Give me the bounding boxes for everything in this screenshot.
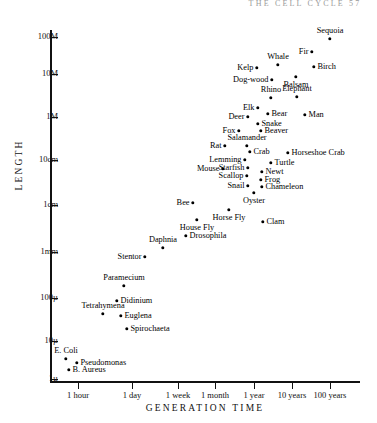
data-point bbox=[246, 115, 249, 118]
y-tick-label: 10M bbox=[12, 69, 58, 78]
data-point bbox=[256, 106, 259, 109]
data-point bbox=[161, 246, 164, 249]
y-tick-label: 1M bbox=[12, 112, 58, 121]
data-point bbox=[303, 113, 306, 116]
data-point-label: Chameleon bbox=[266, 183, 304, 191]
data-point-label: Deer bbox=[228, 113, 244, 121]
x-tick-label: 1 week bbox=[166, 390, 190, 400]
data-point-label: Rhino bbox=[261, 86, 281, 94]
data-point-label: Crab bbox=[254, 148, 270, 156]
data-point-label: Scallop bbox=[219, 172, 244, 180]
data-point-label: Elk bbox=[243, 104, 255, 112]
data-point-label: Euglena bbox=[125, 312, 152, 320]
data-point-label: Drosophila bbox=[190, 232, 227, 240]
data-point-label: Sequoia bbox=[317, 27, 344, 35]
data-point bbox=[243, 158, 246, 161]
data-point bbox=[260, 170, 263, 173]
data-point-label: Fir bbox=[299, 48, 309, 56]
data-point bbox=[67, 368, 70, 371]
y-tick-label: 1mm bbox=[12, 247, 58, 256]
data-point bbox=[195, 218, 198, 221]
data-point bbox=[227, 208, 230, 211]
data-point bbox=[269, 161, 272, 164]
data-point bbox=[270, 78, 273, 81]
data-point-label: Paramecium bbox=[103, 274, 144, 282]
data-point-label: Whale bbox=[267, 53, 289, 61]
data-point-label: Didinium bbox=[121, 297, 153, 305]
x-tick-mark bbox=[78, 381, 79, 389]
y-tick-label: 1µ bbox=[12, 374, 58, 383]
data-point bbox=[184, 234, 187, 237]
data-point-label: Salamander bbox=[227, 134, 266, 142]
data-point-label: Dog-wood bbox=[233, 76, 269, 84]
data-point bbox=[295, 95, 298, 98]
y-tick-label: 100µ bbox=[12, 293, 58, 302]
data-point bbox=[266, 112, 269, 115]
data-point bbox=[276, 63, 279, 66]
x-tick-mark bbox=[132, 381, 133, 389]
data-point-label: Man bbox=[309, 111, 324, 119]
x-tick-mark bbox=[254, 381, 255, 389]
y-tick-label: 100M bbox=[12, 32, 58, 41]
data-point bbox=[245, 174, 248, 177]
data-point-label: Rat bbox=[210, 142, 222, 150]
data-point bbox=[64, 357, 67, 360]
data-point-label: Elephant bbox=[282, 85, 312, 93]
data-point bbox=[261, 220, 264, 223]
data-point bbox=[312, 65, 315, 68]
data-point bbox=[191, 201, 194, 204]
data-point bbox=[101, 312, 104, 315]
x-tick-label: 100 years bbox=[314, 390, 347, 400]
data-point-label: Daphnia bbox=[149, 236, 177, 244]
data-point-label: Spirochaeta bbox=[131, 325, 170, 333]
data-point bbox=[269, 96, 272, 99]
x-tick-mark bbox=[292, 381, 293, 389]
data-point-label: Kelp bbox=[237, 64, 253, 72]
data-point bbox=[246, 166, 249, 169]
data-point-label: Bee bbox=[177, 199, 190, 207]
x-tick-mark bbox=[178, 381, 179, 389]
data-point bbox=[223, 144, 226, 147]
data-point-label: Birch bbox=[318, 63, 336, 71]
data-point bbox=[246, 184, 249, 187]
data-point-label: B. Aureus bbox=[73, 366, 106, 374]
data-point bbox=[255, 66, 258, 69]
x-axis-line bbox=[50, 381, 360, 383]
data-point-label: Bear bbox=[272, 110, 288, 118]
x-tick-label: 1 year bbox=[243, 390, 264, 400]
data-point bbox=[286, 151, 289, 154]
data-point-label: Horse Fly bbox=[213, 214, 246, 222]
data-point bbox=[259, 178, 262, 181]
generation-time-length-chart: THE CELL CYCLE 57 100M10M1M10cm1cm1mm100… bbox=[0, 0, 377, 423]
data-point-label: Beaver bbox=[265, 127, 289, 135]
x-tick-label: 10 years bbox=[278, 390, 307, 400]
data-point bbox=[310, 50, 313, 53]
data-point bbox=[294, 75, 297, 78]
data-point-label: Clam bbox=[267, 218, 285, 226]
data-point-label: Horseshoe Crab bbox=[292, 149, 345, 157]
x-tick-mark bbox=[215, 381, 216, 389]
data-point bbox=[122, 284, 125, 287]
y-axis-title: LENGTH bbox=[14, 125, 24, 205]
x-tick-label: 1 month bbox=[201, 390, 229, 400]
data-point-label: Mouse bbox=[197, 165, 220, 173]
data-point bbox=[143, 255, 146, 258]
data-point bbox=[260, 185, 263, 188]
data-point-label: Snail bbox=[227, 182, 244, 190]
data-point bbox=[245, 144, 248, 147]
page-running-header: THE CELL CYCLE 57 bbox=[235, 0, 375, 8]
data-point bbox=[252, 191, 255, 194]
x-tick-mark bbox=[330, 381, 331, 389]
x-tick-label: 1 day bbox=[123, 390, 142, 400]
data-point-label: Stentor bbox=[118, 253, 142, 261]
data-point bbox=[328, 37, 331, 40]
x-tick-label: 1 hour bbox=[67, 390, 89, 400]
data-point-label: E. Coli bbox=[54, 347, 78, 355]
data-point-label: Oyster bbox=[243, 197, 265, 205]
data-point bbox=[125, 327, 128, 330]
data-point bbox=[119, 314, 122, 317]
data-point-label: Tetrahymena bbox=[81, 302, 124, 310]
data-point bbox=[248, 150, 251, 153]
y-tick-label: 10µ bbox=[12, 336, 58, 345]
x-axis-title: GENERATION TIME bbox=[50, 403, 360, 413]
